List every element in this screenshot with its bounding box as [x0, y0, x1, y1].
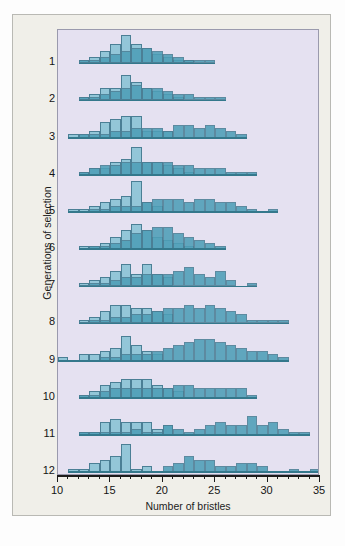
x-axis-minor-tick: [225, 475, 226, 479]
x-axis-minor-tick: [277, 475, 278, 479]
histogram-bar: [110, 456, 120, 472]
plot-panel: [57, 29, 319, 475]
y-axis-tick-labels: 123456789101112: [29, 29, 55, 475]
x-axis-minor-tick: [309, 475, 310, 479]
y-axis-tick-label: 3: [33, 131, 55, 142]
x-axis-minor-tick: [67, 475, 68, 479]
x-axis-line: [57, 475, 319, 477]
x-axis-minor-tick: [183, 475, 184, 479]
x-axis-minor-tick: [193, 475, 194, 479]
x-axis-minor-tick: [120, 475, 121, 479]
histogram-bar: [184, 456, 194, 472]
figure-card: Generations of selection 123456789101112…: [12, 14, 331, 516]
y-axis-tick-label: 10: [33, 391, 55, 402]
x-axis-minor-tick: [204, 475, 205, 479]
histogram-bar: [100, 460, 110, 472]
histogram-bar: [205, 460, 215, 472]
y-axis-tick-label: 9: [33, 354, 55, 365]
x-axis-major-tick: [267, 475, 268, 482]
x-axis-minor-tick: [151, 475, 152, 479]
y-axis-tick-label: 7: [33, 279, 55, 290]
x-axis-minor-tick: [298, 475, 299, 479]
x-axis-minor-tick: [288, 475, 289, 479]
y-axis-tick-label: 11: [33, 428, 55, 439]
x-axis-major-tick: [162, 475, 163, 482]
y-axis-tick-label: 8: [33, 316, 55, 327]
x-axis-major-tick: [109, 475, 110, 482]
x-axis-minor-tick: [88, 475, 89, 479]
figure-root: Generations of selection 123456789101112…: [0, 0, 345, 546]
x-axis-tick-label: 20: [156, 484, 168, 496]
x-axis-major-tick: [57, 475, 58, 482]
histogram-bar: [194, 460, 204, 472]
x-axis-tick-label: 15: [103, 484, 115, 496]
x-axis-major-tick: [214, 475, 215, 482]
y-axis-tick-label: 1: [33, 56, 55, 67]
histogram-row: [58, 30, 318, 472]
y-axis-tick-label: 4: [33, 168, 55, 179]
x-axis-minor-tick: [141, 475, 142, 479]
x-axis-minor-tick: [172, 475, 173, 479]
x-axis-minor-tick: [99, 475, 100, 479]
x-axis: 101520253035 Number of bristles: [57, 475, 319, 517]
x-axis-tick-label: 30: [260, 484, 272, 496]
y-axis-tick-label: 6: [33, 242, 55, 253]
x-axis-major-tick: [319, 475, 320, 482]
x-axis-tick-label: 35: [313, 484, 325, 496]
x-axis-tick-label: 10: [51, 484, 63, 496]
y-axis-tick-label: 12: [33, 465, 55, 476]
x-axis-minor-tick: [78, 475, 79, 479]
x-axis-minor-tick: [246, 475, 247, 479]
x-axis-tick-label: 25: [208, 484, 220, 496]
x-axis-minor-tick: [235, 475, 236, 479]
histogram-baseline: [68, 471, 319, 473]
y-axis-tick-label: 2: [33, 93, 55, 104]
x-axis-minor-tick: [130, 475, 131, 479]
histogram-bar: [121, 444, 131, 472]
x-axis-minor-tick: [256, 475, 257, 479]
y-axis-tick-label: 5: [33, 205, 55, 216]
x-axis-title: Number of bristles: [57, 500, 319, 512]
